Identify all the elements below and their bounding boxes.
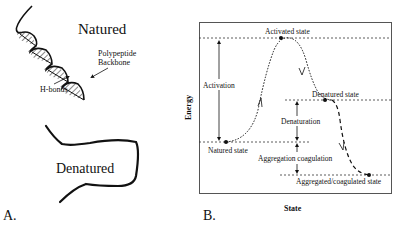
denatured-state-label: Denatured state <box>312 90 360 99</box>
panel-b: Activation Denaturation Aggregation coag… <box>184 23 392 224</box>
aggregation-arrow-icon <box>339 142 344 150</box>
figure-canvas: Natured Polypeptide Backbone H-bonds Den… <box>0 0 398 229</box>
aggregation-curve <box>332 100 370 175</box>
rise-arrow-icon <box>258 98 262 107</box>
panel-a-label: A. <box>3 208 17 223</box>
aggregation-label: Aggregation coagulation <box>258 154 333 163</box>
natured-state-point <box>224 140 228 144</box>
polypeptide-label: Polypeptide <box>98 49 137 58</box>
fall-arrow-icon <box>299 67 305 75</box>
denatured-title: Denatured <box>56 161 114 176</box>
polypeptide-arrow <box>92 68 108 77</box>
panel-a: Natured Polypeptide Backbone H-bonds Den… <box>3 6 138 223</box>
x-axis-label: State <box>284 204 302 213</box>
activated-state-label: Activated state <box>265 27 310 36</box>
hbonds-label: H-bonds <box>40 85 68 94</box>
denaturation-label: Denaturation <box>281 117 320 126</box>
backbone-label: Backbone <box>98 58 130 67</box>
natured-title: Natured <box>78 21 127 37</box>
activation-label: Activation <box>203 81 235 90</box>
plot-frame <box>200 23 392 194</box>
activated-state-point <box>279 36 283 40</box>
aggregated-state-label: Aggregated/coagulated state <box>296 177 382 186</box>
natured-state-label: Natured state <box>208 146 248 155</box>
panel-b-label: B. <box>203 208 216 223</box>
y-axis-label: Energy <box>184 95 193 120</box>
